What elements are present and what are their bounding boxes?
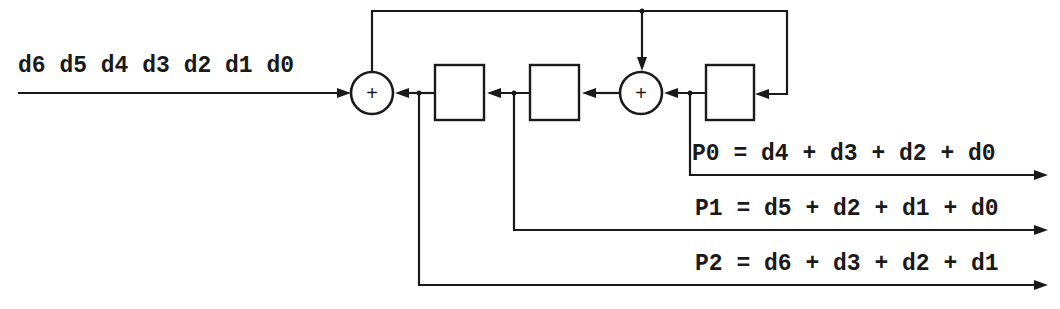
- register-2: [530, 65, 579, 120]
- wire-adder-to-register2: [582, 88, 620, 98]
- shift-register-diagram: d6 d5 d4 d3 d2 d1 d0 + +: [0, 0, 1060, 309]
- wire-register3-to-adder: [664, 88, 706, 98]
- equation-p0: P0 = d4 + d3 + d2 + d0: [692, 141, 996, 167]
- xor-adder-left: +: [351, 72, 393, 114]
- equation-p2: P2 = d6 + d3 + d2 + d1: [695, 251, 999, 277]
- arrow-left-icon: [395, 88, 409, 98]
- arrow-left-icon: [487, 88, 501, 98]
- arrow-right-icon: [1034, 225, 1048, 235]
- input-bit-sequence-label: d6 d5 d4 d3 d2 d1 d0: [18, 53, 294, 79]
- register-3: [706, 65, 754, 120]
- wire-register1-to-adder: [395, 88, 435, 98]
- wire-register2-to-register1: [487, 88, 530, 98]
- register-1: [435, 65, 484, 120]
- xor-adder-right: +: [620, 72, 662, 114]
- equation-p1: P1 = d5 + d2 + d1 + d0: [695, 196, 999, 222]
- plus-icon: +: [366, 82, 378, 104]
- arrow-down-icon: [637, 57, 647, 71]
- plus-icon: +: [635, 82, 647, 104]
- arrow-right-icon: [1034, 170, 1048, 180]
- arrow-left-icon: [755, 89, 769, 99]
- input-wire: [18, 88, 351, 98]
- arrow-right-icon: [1034, 280, 1048, 290]
- arrow-left-icon: [582, 88, 596, 98]
- arrow-right-icon: [337, 88, 351, 98]
- arrow-left-icon: [664, 88, 678, 98]
